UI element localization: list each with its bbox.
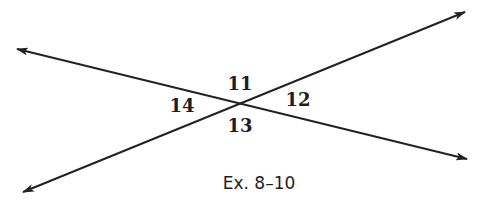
angle-label-14: 14 bbox=[169, 95, 194, 116]
intersecting-lines-diagram: 11 12 13 14 Ex. 8–10 bbox=[0, 0, 489, 224]
angle-label-13: 13 bbox=[227, 115, 252, 136]
figure-caption: Ex. 8–10 bbox=[223, 173, 296, 193]
angle-label-12: 12 bbox=[285, 89, 310, 110]
line-rising bbox=[23, 12, 465, 192]
angle-label-11: 11 bbox=[227, 73, 252, 94]
line-falling bbox=[17, 49, 467, 159]
